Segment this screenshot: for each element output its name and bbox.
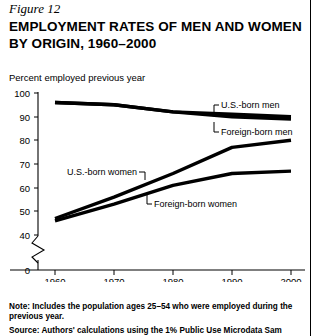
x-tick-label-2000: 2000 [280,276,301,282]
y-tick-label-100: 100 [14,88,30,99]
figure-title-line1: EMPLOYMENT RATES OF MEN AND WOMEN [9,19,302,34]
x-tick-marks [55,270,291,275]
y-axis-break-icon [32,236,44,263]
y-tick-label-40: 40 [19,230,30,241]
figure-number: Figure 12 [9,2,60,16]
chart-plot-area: 100 90 80 70 60 50 40 0 1960 1970 1980 1… [0,86,320,282]
series-line-foreign-born-women [55,171,291,221]
y-tick-label-0: 0 [25,265,30,276]
y-tick-label-80: 80 [19,135,30,146]
series-label-foreign-born-men: Foreign-born men [221,127,293,137]
y-tick-marks [34,93,38,235]
axis-subtitle: Percent employed previous year [9,72,145,83]
line-chart-svg: 100 90 80 70 60 50 40 0 1960 1970 1980 1… [0,86,320,282]
leader-line-foreign-born-women [147,195,152,204]
y-tick-label-90: 90 [19,112,30,123]
series-label-foreign-born-women: Foreign-born women [154,199,237,209]
series-label-us-born-men: U.S.-born men [221,100,280,110]
series-label-us-born-women: U.S.-born women [67,167,137,177]
figure-title: EMPLOYMENT RATES OF MEN AND WOMEN BY ORI… [9,18,309,52]
figure-title-line2: BY ORIGIN, 1960–2000 [9,36,156,51]
x-tick-label-1960: 1960 [44,276,65,282]
y-tick-label-50: 50 [19,206,30,217]
x-tick-label-1970: 1970 [103,276,124,282]
leader-line-us-born-men [214,105,219,113]
figure-source: Source: Authors' calculations using the … [9,326,303,336]
x-tick-label-1990: 1990 [221,276,242,282]
y-tick-label-60: 60 [19,183,30,194]
figure-note: Note: Includes the population ages 25–54… [9,302,303,322]
x-tick-label-1980: 1980 [162,276,183,282]
leader-line-us-born-women [139,172,145,180]
y-tick-label-70: 70 [19,159,30,170]
figure-container: Figure 12 EMPLOYMENT RATES OF MEN AND WO… [0,0,320,336]
leader-line-foreign-born-men [214,122,219,132]
